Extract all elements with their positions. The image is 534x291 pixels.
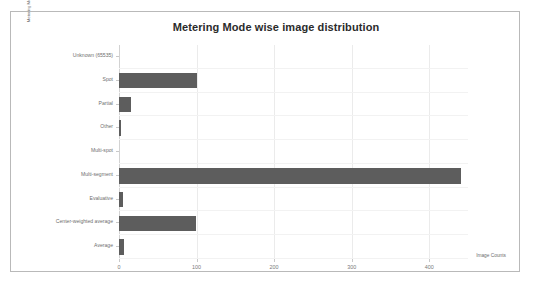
bar-row: Partial xyxy=(119,93,468,117)
category-label: Other xyxy=(100,123,113,130)
y-gridline xyxy=(119,258,468,259)
category-label: Unknown (65535) xyxy=(73,52,113,59)
category-label: Multi-spot xyxy=(91,147,113,154)
x-tick-mark xyxy=(274,259,275,262)
x-tick-mark xyxy=(429,259,430,262)
x-tick-label: 200 xyxy=(270,264,279,270)
x-tick-mark xyxy=(197,259,198,262)
bar[interactable] xyxy=(119,216,196,232)
category-label: Evaluative xyxy=(89,195,113,202)
x-tick-mark xyxy=(352,259,353,262)
y-axis-title: Metering Mode xyxy=(26,0,31,36)
bar-row: Average xyxy=(119,235,468,259)
plot-area: 0100200300400Unknown (65535)SpotPartialO… xyxy=(119,45,468,259)
bar[interactable] xyxy=(119,168,461,184)
bar-row: Unknown (65535) xyxy=(119,45,468,69)
bar-row: Multi-spot xyxy=(119,140,468,164)
bar[interactable] xyxy=(119,239,124,255)
x-tick-label: 400 xyxy=(425,264,434,270)
category-label: Average xyxy=(94,242,113,249)
y-tick-mark xyxy=(116,151,119,152)
category-label: Spot xyxy=(103,76,113,83)
category-label: Partial xyxy=(99,100,113,107)
bar-row: Evaluative xyxy=(119,188,468,212)
bar-row: Multi-segment xyxy=(119,164,468,188)
category-label: Center-weighted average xyxy=(56,218,113,225)
x-axis-title: Image Counts xyxy=(476,253,506,258)
chart-title: Metering Mode wise image distribution xyxy=(11,21,519,33)
chart-frame: Metering Mode wise image distribution Me… xyxy=(10,11,520,272)
bar[interactable] xyxy=(119,73,197,89)
x-tick-label: 100 xyxy=(192,264,201,270)
bar-row: Center-weighted average xyxy=(119,211,468,235)
bar-row: Other xyxy=(119,116,468,140)
bar[interactable] xyxy=(119,192,123,208)
bar-row: Spot xyxy=(119,69,468,93)
bar[interactable] xyxy=(119,120,121,136)
bar[interactable] xyxy=(119,97,131,113)
category-label: Multi-segment xyxy=(81,171,113,178)
y-tick-mark xyxy=(116,56,119,57)
x-tick-label: 0 xyxy=(118,264,121,270)
x-tick-label: 300 xyxy=(347,264,356,270)
x-tick-mark xyxy=(119,259,120,262)
